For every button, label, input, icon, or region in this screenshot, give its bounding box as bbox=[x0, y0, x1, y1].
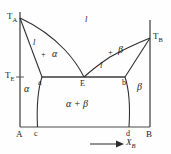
x-axis-arrow-head bbox=[116, 141, 124, 148]
x-axis-label: XB bbox=[126, 138, 135, 149]
region-alpha-plus-beta-label: α + β bbox=[66, 99, 88, 109]
region-beta-label: β bbox=[137, 82, 142, 92]
region-liquid-plus-beta-phase: β bbox=[118, 45, 123, 55]
point-a-label: a bbox=[38, 79, 42, 87]
region-liquid-plus-alpha-plus: + bbox=[41, 50, 46, 59]
region-liquid-plus-beta-plus: + bbox=[108, 48, 113, 57]
point-c-label: c bbox=[34, 130, 38, 138]
point-E-label: E bbox=[80, 80, 85, 88]
point-b-label: b bbox=[122, 79, 126, 87]
region-liquid-plus-alpha-phase: α bbox=[52, 49, 57, 59]
melting-point-A-label: TA bbox=[7, 12, 17, 23]
liquidus-curve-right bbox=[84, 38, 150, 77]
phase-diagram-figure: TA TE TB A B a E b c d l l + α + β l α β… bbox=[0, 0, 171, 154]
solidus-line-left bbox=[20, 18, 42, 77]
melting-point-B-label: TB bbox=[153, 32, 163, 43]
region-liquid-plus-alpha-l: l bbox=[33, 38, 35, 47]
region-liquid-plus-beta-l: l bbox=[100, 61, 102, 70]
axis-endpoint-B-label: B bbox=[146, 130, 152, 139]
eutectic-temperature-label: TE bbox=[5, 71, 14, 82]
axis-endpoint-A-label: A bbox=[16, 130, 23, 139]
region-alpha-label: α bbox=[24, 84, 29, 94]
region-liquid-label: l bbox=[85, 15, 87, 24]
